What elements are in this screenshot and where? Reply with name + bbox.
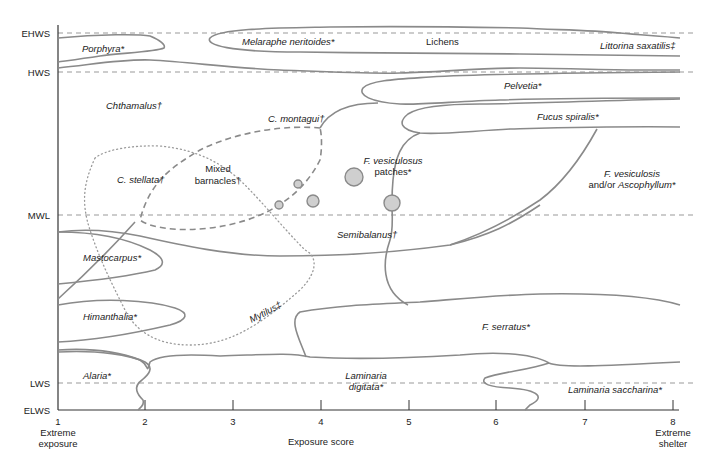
tick-label-7: 7 <box>582 416 587 427</box>
x-right-end-label-1: Extreme <box>655 427 690 438</box>
tick-label-5: 5 <box>406 416 411 427</box>
label-melaraphe: Melaraphe neritoides* <box>242 36 335 47</box>
label-mixed-barnacles-2: barnacles† <box>195 175 241 186</box>
fv-patch-2 <box>294 180 302 188</box>
fv-patch-1 <box>275 201 283 209</box>
x-axis-title: Exposure score <box>288 436 354 447</box>
x-ticks <box>145 400 673 410</box>
level-mwl: MWL <box>28 210 50 221</box>
label-littorina: Littorina saxatilis‡ <box>600 40 676 51</box>
c-montagui-boundary <box>320 103 378 128</box>
label-mixed-barnacles-1: Mixed <box>205 163 230 174</box>
tick-label-8: 8 <box>670 416 675 427</box>
label-alaria: Alaria* <box>82 370 111 381</box>
label-f-vesiculosus-patches-1: F. vesiculosus <box>364 155 423 166</box>
tick-label-4: 4 <box>318 416 323 427</box>
x-left-end-label-2: exposure <box>38 438 77 449</box>
fv-patch-5 <box>384 195 400 211</box>
label-mytilus: Mytilus‡ <box>247 298 284 324</box>
level-lws: LWS <box>30 378 50 389</box>
label-chthamalus: Chthamalus† <box>106 100 163 111</box>
label-himanthalia: Himanthalia* <box>83 311 137 322</box>
tick-label-6: 6 <box>493 416 498 427</box>
label-pelvetia: Pelvetia* <box>504 80 542 91</box>
label-lichens: Lichens <box>426 36 459 47</box>
zonation-diagram: EHWS HWS MWL LWS ELWS 1 2 3 4 5 6 7 8 Ex… <box>0 0 715 473</box>
fv-patch-3 <box>307 195 319 207</box>
label-fucus-spiralis: Fucus spiralis* <box>537 111 599 122</box>
f-serratus-lower <box>58 349 680 368</box>
semibalanus-boundary <box>58 205 540 256</box>
label-semibalanus: Semibalanus† <box>337 229 398 240</box>
tick-label-3: 3 <box>230 416 235 427</box>
label-f-vesiculosis-1: F. vesiculosis <box>604 168 660 179</box>
label-f-serratus: F. serratus* <box>482 321 530 332</box>
label-and-or: and/or <box>588 179 618 190</box>
label-mastocarpus: Mastocarpus* <box>83 252 141 263</box>
hws-band-boundary <box>58 60 680 73</box>
tick-label-1: 1 <box>55 416 60 427</box>
level-hws: HWS <box>28 67 50 78</box>
fv-patch-4 <box>345 168 363 186</box>
label-f-vesiculosus-patches-2: patches* <box>375 166 412 177</box>
x-left-end-label-1: Extreme <box>40 427 75 438</box>
x-right-end-label-2: shelter <box>659 438 688 449</box>
label-c-stellata: C. stellata† <box>117 174 165 185</box>
level-elws: ELWS <box>24 405 50 416</box>
level-ehws: EHWS <box>22 28 51 39</box>
label-ascophyllum: Ascophyllum* <box>617 179 676 190</box>
label-f-vesiculosis-2: and/or Ascophyllum* <box>588 179 675 190</box>
ascophyllum-boundary <box>450 129 597 245</box>
label-porphyra: Porphyra* <box>82 43 125 54</box>
label-laminaria-digitata-2: digitata* <box>349 381 384 392</box>
label-laminaria-digitata-1: Laminaria <box>345 370 387 381</box>
tick-label-2: 2 <box>142 416 147 427</box>
label-laminaria-saccharina: Laminaria saccharina* <box>568 384 662 395</box>
label-c-montagui: C. montagui† <box>268 113 325 124</box>
laminaria-saccharina-boundary <box>484 363 549 410</box>
